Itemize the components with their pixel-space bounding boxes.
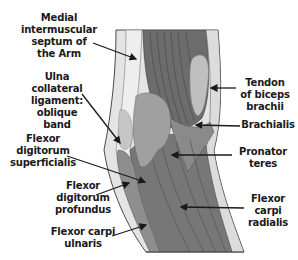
- label-ulna-collateral-ligament: Ulna collateral ligament: oblique band: [22, 71, 92, 131]
- label-flexor-carpi-ulnaris: Flexor carpi ulnaris: [38, 226, 128, 250]
- label-flexor-carpi-radialis: Flexor carpi radialis: [240, 193, 296, 229]
- label-pronator-teres: Pronator teres: [232, 146, 294, 170]
- label-flexor-digitorum-profundus: Flexor digitorum profundus: [48, 180, 118, 216]
- label-flexor-digitorum-superficialis: Flexor digitorum superficialis: [8, 133, 78, 169]
- anatomy-diagram: Medial intermuscular septum of the Arm U…: [0, 0, 298, 260]
- label-medial-intermuscular-septum: Medial intermuscular septum of the Arm: [14, 12, 104, 60]
- label-brachialis: Brachialis: [238, 119, 298, 131]
- label-tendon-of-biceps-brachii: Tendon of biceps brachii: [232, 77, 298, 113]
